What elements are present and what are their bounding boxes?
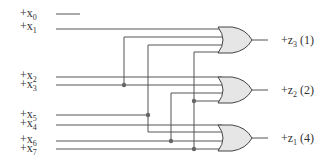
wire-x6-branch <box>171 93 222 141</box>
output-label-z3: +z3 (1) <box>281 34 314 51</box>
output-label-z1: +z1 (4) <box>281 132 314 149</box>
wire-x3-branch <box>124 37 222 85</box>
input-label-x1: +x1 <box>20 20 37 37</box>
input-label-x7: +x7 <box>20 142 37 159</box>
output-label-z2: +z2 (2) <box>281 84 314 101</box>
junction-dot <box>122 83 126 87</box>
junction-dot <box>192 147 196 151</box>
or-gate-z3 <box>218 27 252 53</box>
input-label-x3: +x3 <box>20 78 37 95</box>
or-gate-z1 <box>218 125 252 151</box>
junction-dot <box>169 139 173 143</box>
junction-dot <box>146 113 150 117</box>
wire-x5-branch <box>148 45 222 132</box>
junction-dot <box>192 99 196 103</box>
or-gate-z2 <box>218 77 252 103</box>
